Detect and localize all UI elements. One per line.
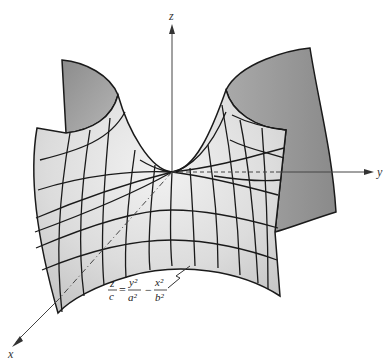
y-axis-label: y — [376, 165, 383, 179]
eq-term1-numerator: y² — [128, 276, 138, 288]
z-axis: z — [168, 9, 175, 172]
eq-term2-denominator: b² — [155, 291, 165, 303]
eq-minus: − — [145, 283, 152, 297]
eq-lhs-denominator: c — [109, 290, 114, 302]
eq-lhs-numerator: z — [109, 277, 115, 289]
eq-term2-numerator: x² — [154, 276, 164, 288]
z-axis-label: z — [168, 9, 174, 23]
eq-term1-denominator: a² — [128, 291, 138, 303]
x-axis-label: x — [7, 347, 14, 361]
eq-equals: = — [119, 283, 126, 297]
hyperbolic-paraboloid-diagram: z y — [0, 0, 391, 362]
